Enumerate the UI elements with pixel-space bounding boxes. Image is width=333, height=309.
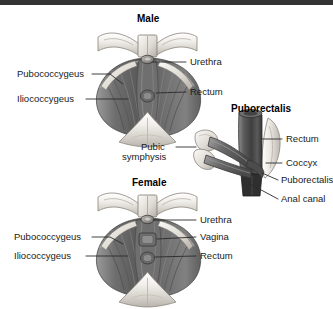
top-border-bar (0, 0, 333, 5)
female-label-pubococcygeus: Pubococcygeus (14, 232, 81, 242)
pr-label-anal-canal: Anal canal (281, 194, 325, 204)
female-label-vagina: Vagina (200, 232, 229, 242)
female-label-iliococcygeus: Iliococcygeus (14, 251, 71, 261)
puborectalis-anatomy-group (194, 110, 281, 197)
leader-female-rectum (155, 256, 196, 257)
anatomy-artwork (0, 0, 333, 309)
leader-lines (86, 62, 282, 257)
male-anatomy-group (96, 33, 200, 147)
leader-male-pubococcygeus (92, 74, 123, 84)
male-label-rectum: Rectum (190, 87, 223, 97)
leader-female-pubococcygeus (92, 237, 123, 244)
pr-label-coccyx: Coccyx (286, 158, 317, 168)
female-panel-title: Female (132, 177, 166, 188)
female-anatomy-group (96, 193, 200, 307)
pr-label-rectum: Rectum (286, 134, 319, 144)
male-label-pubococcygeus: Pubococcygeus (17, 69, 84, 79)
male-label-urethra: Urethra (190, 57, 222, 67)
female-label-urethra: Urethra (200, 215, 232, 225)
male-label-symphysis: symphysis (122, 152, 166, 162)
leader-male-rectum (156, 92, 186, 93)
pr-label-puborectalis: Puborectalis (281, 175, 333, 185)
anatomy-figure: Male Pubococcygeus Iliococcygeus Urethra… (0, 0, 333, 309)
puborectalis-panel-title: Puborectalis (231, 103, 291, 114)
leader-pr-puborectalis (262, 173, 278, 180)
leader-female-vagina (157, 237, 196, 239)
male-label-iliococcygeus: Iliococcygeus (17, 94, 74, 104)
male-panel-title: Male (137, 13, 159, 24)
female-label-rectum: Rectum (200, 251, 233, 261)
leader-pr-anal-canal (250, 184, 278, 199)
